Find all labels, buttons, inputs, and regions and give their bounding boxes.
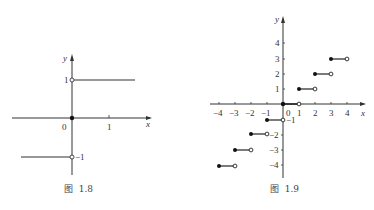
y-tick-label-minus-1: −1 [75,152,85,162]
figure-caption: 图 1.8 [64,184,93,194]
figure-caption: 图 1.9 [270,184,299,194]
open-point-0-1 [70,78,74,82]
filled-point-origin [70,116,74,120]
figure-1-8: y 1 0 1 x −1 图 1.8 [12,53,152,194]
y-axis-label: y [62,53,67,63]
y-tick-label: −2 [269,130,279,140]
y-tick-label: −1 [286,115,296,125]
open-point-0-minus-1 [70,155,74,159]
x-axis-arrow-icon [360,102,366,106]
x-tick-label: −2 [245,108,255,118]
y-tick-label-1: 1 [64,75,69,85]
origin-label: 0 [62,122,67,132]
y-tick-label: 3 [275,54,280,64]
x-axis-label: x [145,119,150,129]
x-tick-label: 1 [297,108,302,118]
x-tick-label: 4 [345,108,350,118]
y-tick-label: 4 [275,38,280,48]
y-axis-arrow-icon [70,54,74,61]
x-tick-label: −1 [261,108,271,118]
x-tick-label: −3 [229,108,239,118]
figures-canvas: y 1 0 1 x −1 图 1.8 [0,0,374,210]
x-tick-label: 2 [313,108,318,118]
x-tick-label-1: 1 [107,122,112,132]
x-tick-label: 3 [329,108,334,118]
y-axis-label: y [274,14,279,24]
y-axis-arrow-icon [281,16,285,23]
y-tick-label: 2 [275,69,280,79]
x-tick-label: −4 [213,108,223,118]
x-axis-label: x [360,108,365,118]
y-tick-label: 1 [275,84,280,94]
y-tick-label: −4 [269,160,279,170]
y-tick-label: −3 [269,145,279,155]
figure-1-9: y x 0 −4 −3 −2 −1 1 2 3 4 1 2 3 4 −1 −2 … [210,14,366,194]
